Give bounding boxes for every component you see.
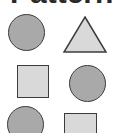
circle-shape-r1c1 [8, 14, 45, 51]
triangle-shape-r1c2 [63, 16, 107, 53]
square-shape-r3c2 [64, 113, 97, 133]
circle-shape-r2c2 [69, 65, 106, 102]
circle-shape-r3c1 [7, 106, 44, 133]
square-shape-r2c1 [17, 65, 49, 98]
pattern-title: Pattern [10, 0, 113, 8]
